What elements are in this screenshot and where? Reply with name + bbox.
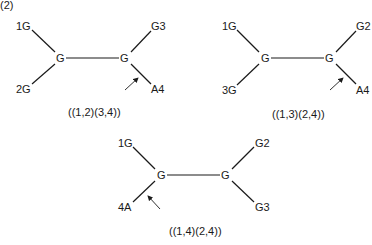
arrow-icon xyxy=(125,78,138,90)
tree-edges xyxy=(0,0,372,245)
leaf-bottom-left: 3G xyxy=(222,85,237,96)
leaf-top-right: G3 xyxy=(151,21,166,32)
leaf-top-left: 1G xyxy=(118,138,133,149)
tree-caption: ((1,4)(2,4)) xyxy=(169,226,222,237)
node-right: G xyxy=(221,170,230,181)
leaf-bottom-right: A4 xyxy=(356,85,369,96)
node-left: G xyxy=(56,53,65,64)
leaf-top-left: 1G xyxy=(16,21,31,32)
tree-caption: ((1,2)(3,4)) xyxy=(68,107,121,118)
arrow-icon xyxy=(148,196,160,209)
edge xyxy=(237,64,259,85)
figure-label: (2) xyxy=(0,0,13,11)
leaf-bottom-left: 4A xyxy=(118,202,131,213)
edge xyxy=(133,181,155,202)
edge xyxy=(131,31,151,52)
node-right: G xyxy=(325,53,334,64)
leaf-bottom-left: 2G xyxy=(16,84,31,95)
node-left: G xyxy=(261,53,270,64)
node-left: G xyxy=(157,170,166,181)
edge xyxy=(32,30,55,52)
leaf-top-right: G2 xyxy=(356,21,371,32)
edge xyxy=(131,64,151,84)
edge xyxy=(336,64,356,84)
edge xyxy=(32,64,55,84)
edge xyxy=(237,30,259,52)
node-right: G xyxy=(120,53,129,64)
arrow-icon xyxy=(330,78,343,90)
edge xyxy=(336,31,356,52)
leaf-top-left: 1G xyxy=(222,21,237,32)
edge xyxy=(232,181,254,202)
edge xyxy=(133,147,155,169)
tree-caption: ((1,3)(2,4)) xyxy=(272,109,325,120)
edge xyxy=(232,147,254,169)
leaf-bottom-right: G3 xyxy=(255,202,270,213)
leaf-top-right: G2 xyxy=(255,138,270,149)
leaf-bottom-right: A4 xyxy=(151,84,164,95)
